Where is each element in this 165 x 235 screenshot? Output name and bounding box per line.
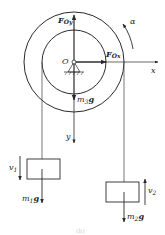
velocity-v1-label: v1 (9, 163, 17, 173)
force-Oy-label: FOy (57, 15, 73, 26)
velocity-v2-label: v2 (148, 186, 157, 196)
origin-label: O (62, 57, 69, 66)
y-axis-label: y (65, 132, 71, 141)
alpha-label: α (130, 17, 136, 26)
angular-acceleration-arrow (123, 24, 133, 49)
block-m2 (106, 182, 139, 202)
weight-m1g-label: m1g (22, 193, 39, 204)
pulley-free-body-diagram: x y FOy FOx m3g O α m1g v1 m2g v2 (b) (0, 0, 165, 235)
x-axis-label: x (151, 66, 156, 75)
weight-m2g-label: m2g (127, 211, 144, 222)
figure-caption: (b) (76, 227, 85, 234)
weight-m3g-label: m3g (77, 94, 94, 105)
origin-pin (72, 60, 76, 64)
force-Ox-label: FOx (105, 49, 121, 59)
block-m1 (27, 159, 60, 179)
